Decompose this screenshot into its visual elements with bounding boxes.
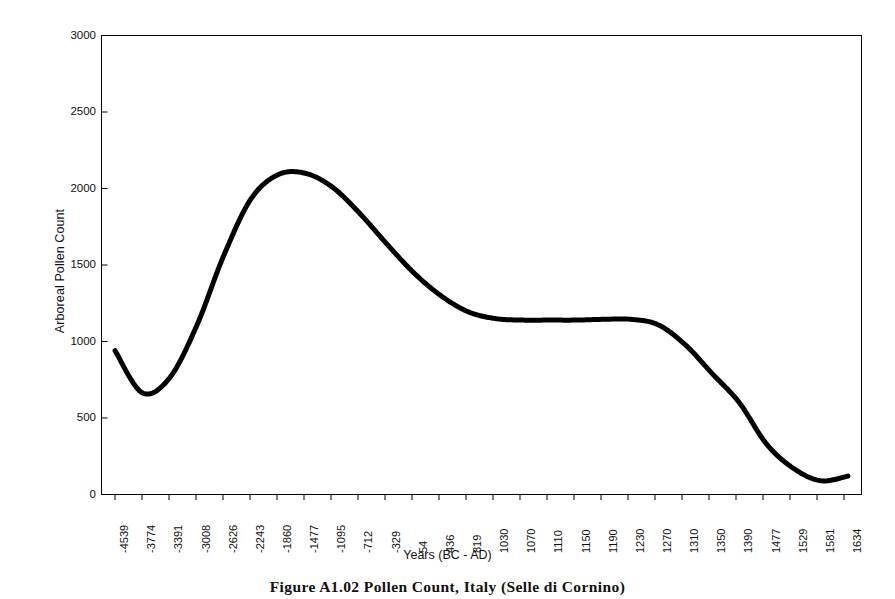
x-tick-label: -3391: [173, 495, 184, 553]
y-tick-label: 3000: [54, 30, 96, 42]
x-tick-label: 1390: [743, 495, 754, 553]
x-tick-label: 1529: [798, 495, 809, 553]
x-tick-label: 1230: [635, 495, 646, 553]
x-tick-label: -712: [363, 495, 374, 553]
x-tick-label: 1030: [499, 495, 510, 553]
y-axis-title: Arboreal Pollen Count: [53, 151, 67, 391]
x-tick-label: -1860: [282, 495, 293, 553]
x-tick-label: 1270: [662, 495, 673, 553]
chart-plot-area: 3000 2500 2000 1500 1000 500 0 Arboreal …: [0, 0, 895, 530]
x-tick-label: -2626: [228, 495, 239, 553]
x-tick-label: 1070: [526, 495, 537, 553]
x-tick-label: -1095: [336, 495, 347, 553]
x-tick-label: 54: [418, 495, 429, 553]
x-tick-label: -3008: [201, 495, 212, 553]
pollen-count-line-chart: [0, 0, 895, 530]
x-tick-label: 1634: [852, 495, 863, 553]
x-tick-label: -4539: [119, 495, 130, 553]
x-tick-label: 1310: [689, 495, 700, 553]
y-tick-label: 500: [54, 412, 96, 424]
x-tick-label: -3774: [146, 495, 157, 553]
x-tick-label: -2243: [255, 495, 266, 553]
x-tick-label: -329: [391, 495, 402, 553]
plot-frame: [102, 36, 862, 495]
x-tick-label: 436: [445, 495, 456, 553]
x-tick-label: 1150: [581, 495, 592, 553]
x-tick-label: 819: [472, 495, 483, 553]
y-tick-label: 2500: [54, 106, 96, 118]
x-axis-title: Years (BC - AD): [0, 548, 895, 562]
x-tick-label: 1190: [608, 495, 619, 553]
figure-root: 3000 2500 2000 1500 1000 500 0 Arboreal …: [0, 0, 895, 599]
x-tick-label: 1350: [716, 495, 727, 553]
x-tick-label: 1581: [825, 495, 836, 553]
x-tick-label: -1477: [309, 495, 320, 553]
x-tick-label: 1477: [771, 495, 782, 553]
x-tick-label: 1110: [553, 495, 564, 553]
figure-caption: Figure A1.02 Pollen Count, Italy (Selle …: [0, 578, 895, 596]
